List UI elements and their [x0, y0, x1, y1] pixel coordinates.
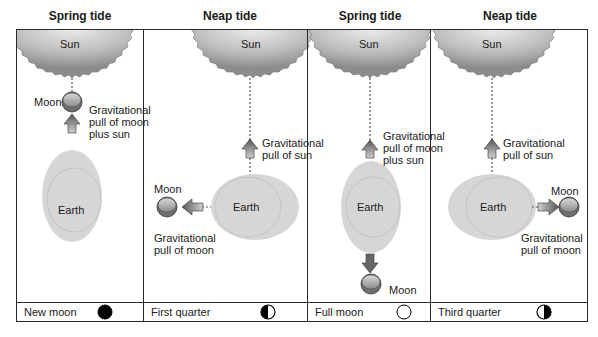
- pull-label-line: Gravitational: [521, 232, 583, 244]
- panel-divider: [307, 29, 308, 322]
- moon-pull-label: Gravitational pull of moon: [521, 232, 583, 256]
- pull-label-line: pull of moon: [521, 244, 583, 256]
- phase-label-third-quarter: Third quarter: [438, 306, 501, 318]
- pull-label-line: pull of sun: [262, 149, 324, 161]
- panel-divider: [430, 29, 431, 322]
- pull-label: Gravitational pull of moon plus sun: [89, 104, 151, 140]
- pull-label-line: Gravitational: [383, 130, 445, 142]
- earth-label: Earth: [357, 201, 383, 213]
- pull-label-line: pull of moon: [154, 244, 216, 256]
- pull-label-line: Gravitational: [89, 104, 151, 116]
- footer-divider: [16, 302, 588, 303]
- sun-label: Sun: [60, 38, 80, 50]
- pull-label-line: pull of moon: [89, 116, 151, 128]
- earth-label: Earth: [58, 204, 84, 216]
- earth-label: Earth: [480, 201, 506, 213]
- sun-label: Sun: [482, 38, 502, 50]
- moon-label: Moon: [34, 96, 62, 108]
- phase-label-full-moon: Full moon: [315, 306, 363, 318]
- earth-label: Earth: [233, 201, 259, 213]
- panel-divider: [143, 29, 144, 322]
- moon-label: Moon: [551, 185, 579, 197]
- pull-label-line: Gravitational: [154, 232, 216, 244]
- phase-label-first-quarter: First quarter: [151, 306, 210, 318]
- pull-label-line: Gravitational: [262, 137, 324, 149]
- moon-pull-label: Gravitational pull of moon: [154, 232, 216, 256]
- phase-label-new-moon: New moon: [24, 306, 77, 318]
- sun-label: Sun: [241, 38, 261, 50]
- sun-pull-label: Gravitational pull of sun: [262, 137, 324, 161]
- pull-label-line: plus sun: [383, 154, 445, 166]
- pull-label-line: Gravitational: [503, 137, 565, 149]
- moon-label: Moon: [154, 183, 182, 195]
- pull-label-line: pull of moon: [383, 142, 445, 154]
- diagram-frame: [16, 29, 588, 322]
- sun-label: Sun: [359, 38, 379, 50]
- pull-label-line: pull of sun: [503, 149, 565, 161]
- sun-pull-label: Gravitational pull of sun: [503, 137, 565, 161]
- moon-label: Moon: [389, 284, 417, 296]
- pull-label-line: plus sun: [89, 128, 151, 140]
- pull-label: Gravitational pull of moon plus sun: [383, 130, 445, 166]
